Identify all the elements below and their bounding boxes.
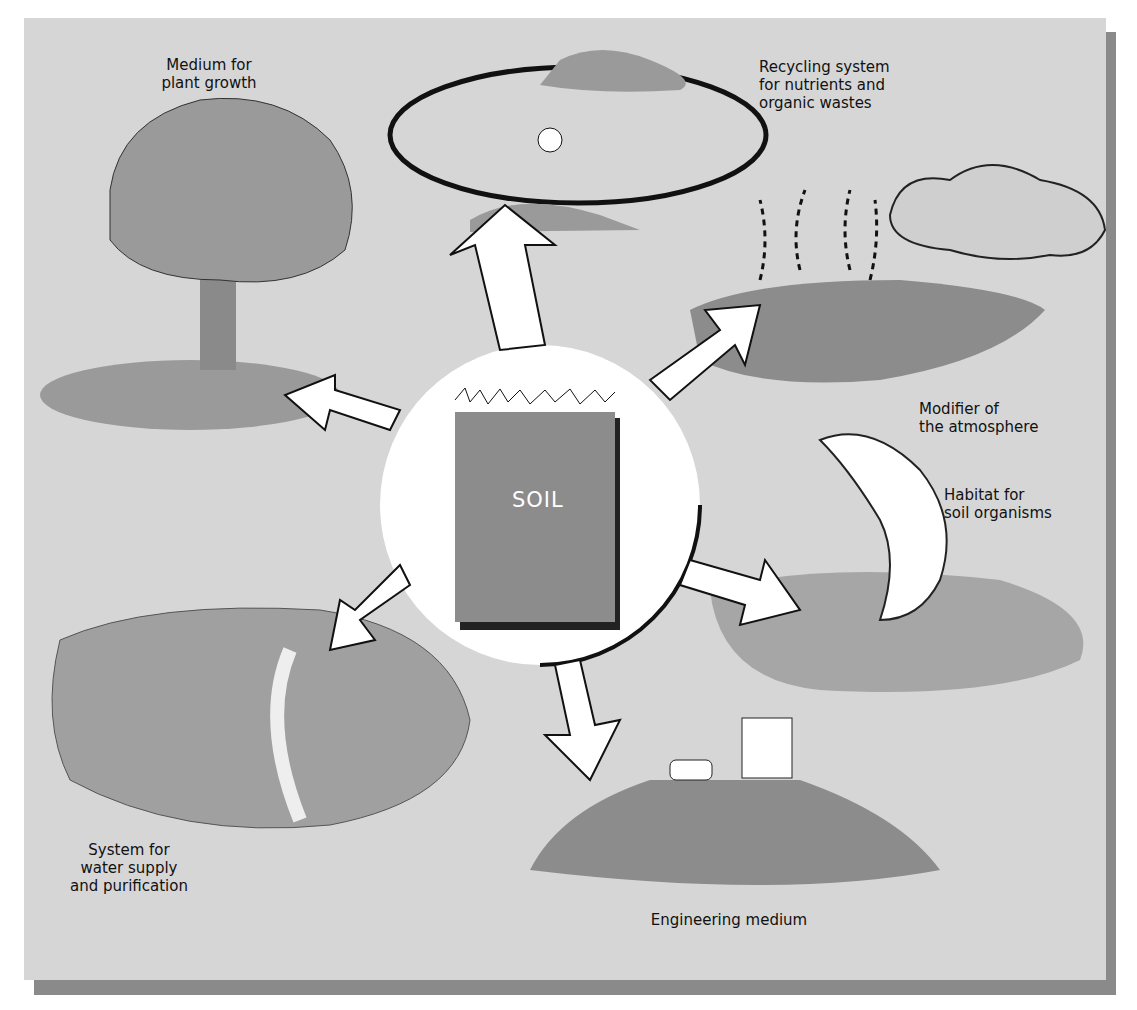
- label-plant-growth: Medium for plant growth: [144, 56, 274, 92]
- watershed-landscape: [52, 608, 470, 828]
- label-engineering: Engineering medium: [644, 911, 814, 929]
- organic-waste-pile: [540, 50, 686, 92]
- cloud-icon: [890, 165, 1105, 259]
- gas-flux-arrows: [760, 190, 877, 280]
- diagram-panel: SOIL Medium for plant growth Recycling s…: [24, 18, 1106, 980]
- label-recycling: Recycling system for nutrients and organ…: [759, 58, 909, 112]
- truck-icon: [742, 718, 792, 778]
- embankment: [530, 780, 940, 885]
- flower-icon: [538, 128, 562, 152]
- car-icon: [670, 760, 712, 780]
- label-habitat: Habitat for soil organisms: [944, 486, 1084, 522]
- arrow-engineering: [545, 660, 620, 780]
- soil-label: SOIL: [512, 488, 564, 512]
- soil-profile-box: [455, 410, 615, 622]
- label-atmosphere: Modifier of the atmosphere: [919, 400, 1059, 436]
- tree-icon: [110, 98, 352, 282]
- label-water: System for water supply and purification: [54, 841, 204, 895]
